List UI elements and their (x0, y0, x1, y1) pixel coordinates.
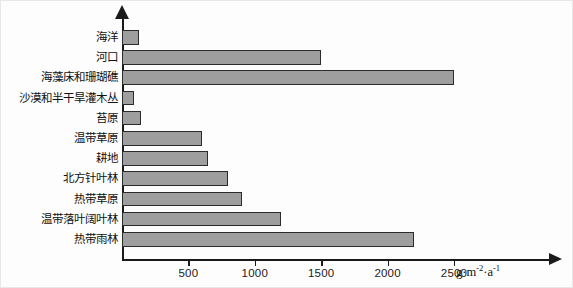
bar (122, 212, 281, 227)
x-axis-unit-label: g·m-2·a-1 (456, 263, 500, 280)
category-label: 海藻床和珊瑚礁 (3, 70, 121, 85)
unit-metre: m (466, 265, 476, 279)
bar-row: 温带落叶阔叶林 (1, 212, 573, 231)
bar (122, 151, 208, 166)
bar (122, 171, 228, 186)
bar-row: 热带雨林 (1, 232, 573, 251)
x-axis-tick-mark (388, 260, 389, 266)
category-label: 温带落叶阔叶林 (3, 212, 121, 227)
category-label: 沙漠和半干旱灌木丛 (3, 91, 121, 106)
unit-annum-exponent: -1 (493, 263, 500, 273)
category-label: 耕地 (3, 151, 121, 166)
bar (122, 111, 141, 126)
bar-row: 海藻床和珊瑚礁 (1, 70, 573, 89)
bar (122, 131, 202, 146)
bar (122, 50, 321, 65)
x-axis-tick-label: 1500 (308, 267, 334, 279)
bar (122, 192, 242, 207)
bar-row: 海洋 (1, 30, 573, 49)
category-label: 温带草原 (3, 131, 121, 146)
bar-row: 北方针叶林 (1, 171, 573, 190)
x-axis-tick-label: 1000 (242, 267, 268, 279)
category-label: 河口 (3, 50, 121, 65)
x-axis-line (122, 259, 551, 261)
bar-row: 热带草原 (1, 192, 573, 211)
bar-row: 温带草原 (1, 131, 573, 150)
x-axis-tick-label: 2000 (374, 267, 400, 279)
category-label: 热带草原 (3, 192, 121, 207)
bar (122, 70, 454, 85)
plot-area: 海洋河口海藻床和珊瑚礁沙漠和半干旱灌木丛苔原温带草原耕地北方针叶林热带草原温带落… (1, 1, 573, 288)
category-label: 热带雨林 (3, 232, 121, 247)
category-label: 苔原 (3, 111, 121, 126)
x-axis-tick-mark (188, 260, 189, 266)
origin-tick-mark (122, 251, 124, 261)
category-label: 海洋 (3, 30, 121, 45)
x-axis-tick-label: 500 (178, 267, 198, 279)
bar (122, 232, 414, 247)
y-axis-arrow-icon (115, 5, 129, 19)
x-axis-arrow-icon (549, 253, 562, 265)
x-axis-tick-mark (321, 260, 322, 266)
net-primary-productivity-bar-chart: 海洋河口海藻床和珊瑚礁沙漠和半干旱灌木丛苔原温带草原耕地北方针叶林热带草原温带落… (0, 0, 573, 288)
bar-row: 沙漠和半干旱灌木丛 (1, 91, 573, 110)
bar-row: 苔原 (1, 111, 573, 130)
bar (122, 91, 134, 106)
bar (122, 30, 139, 45)
bar-row: 耕地 (1, 151, 573, 170)
bar-row: 河口 (1, 50, 573, 69)
x-axis-tick-mark (255, 260, 256, 266)
category-label: 北方针叶林 (3, 171, 121, 186)
